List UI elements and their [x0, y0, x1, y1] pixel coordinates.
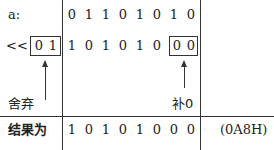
bit: 0 — [118, 122, 128, 138]
bit: 1 — [101, 7, 111, 23]
bit: 0 — [84, 122, 94, 138]
bit: 0 — [186, 122, 196, 138]
bit: 0 — [152, 7, 162, 23]
bit: 0 — [169, 122, 179, 138]
bit: 1 — [169, 7, 179, 23]
bit: 1 — [67, 122, 77, 138]
bit: 0 — [152, 122, 162, 138]
bit: 1 — [101, 38, 111, 54]
filled-bit: 0 — [186, 38, 196, 54]
bit: 1 — [101, 122, 111, 138]
bit: 1 — [135, 122, 145, 138]
fill-zero-label: 补0 — [172, 96, 193, 112]
bit: 0 — [84, 38, 94, 54]
bit: 0 — [186, 7, 196, 23]
discarded-bit: 1 — [48, 38, 58, 54]
shift-operator-label: << — [6, 38, 28, 54]
result-label: 结果为 — [8, 122, 47, 138]
shift-left-diagram: a: 0 1 1 0 1 0 1 0 << 0 1 1 0 1 0 1 0 0 … — [0, 0, 274, 150]
bit: 0 — [118, 7, 128, 23]
row-a-label: a: — [8, 7, 20, 23]
bit: 1 — [67, 38, 77, 54]
bit: 1 — [135, 7, 145, 23]
result-row-divider — [0, 116, 274, 117]
right-column-divider — [200, 0, 201, 150]
filled-bit: 0 — [172, 38, 182, 54]
bit: 0 — [152, 38, 162, 54]
bit: 1 — [135, 38, 145, 54]
result-hex-value: (0A8H) — [220, 122, 267, 138]
bit: 0 — [118, 38, 128, 54]
discard-label: 舍弃 — [8, 96, 34, 112]
left-column-divider — [62, 0, 63, 150]
bit: 1 — [84, 7, 94, 23]
discarded-bit: 0 — [34, 38, 44, 54]
bit: 0 — [67, 7, 77, 23]
